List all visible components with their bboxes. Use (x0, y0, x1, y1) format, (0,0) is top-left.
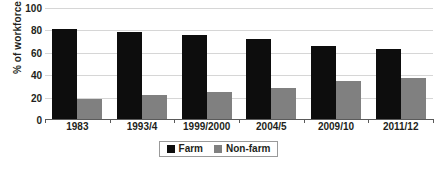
plot-area (45, 8, 433, 120)
bar-farm-1999-2000[interactable] (182, 35, 207, 120)
chart-legend: FarmNon-farm (0, 141, 437, 157)
x-axis-tick-mark (433, 119, 434, 123)
bar-farm-2009-10[interactable] (311, 46, 336, 120)
bar-non-farm-2011-12[interactable] (401, 78, 426, 120)
y-axis-tick-label: 60 (31, 47, 42, 58)
bar-group (45, 8, 110, 120)
bar-non-farm-2004-5[interactable] (271, 88, 296, 120)
y-axis-tick-label: 80 (31, 25, 42, 36)
bars-layer (45, 8, 433, 120)
x-axis-label-2004-5: 2004/5 (239, 121, 304, 132)
legend-entry-farm[interactable]: Farm (167, 143, 203, 154)
bar-group (368, 8, 433, 120)
bar-group (239, 8, 304, 120)
legend-box: FarmNon-farm (159, 141, 279, 157)
bar-group (174, 8, 239, 120)
bar-farm-2004-5[interactable] (246, 39, 271, 120)
bar-farm-1983[interactable] (52, 29, 77, 120)
bar-non-farm-1993-4[interactable] (142, 95, 167, 120)
y-axis-tick-label: 40 (31, 70, 42, 81)
bar-non-farm-1999-2000[interactable] (207, 92, 232, 120)
legend-entry-non-farm[interactable]: Non-farm (214, 143, 270, 154)
bar-group (304, 8, 369, 120)
legend-swatch-icon (167, 145, 175, 153)
bar-non-farm-1983[interactable] (77, 99, 102, 120)
y-axis-tick-label: 20 (31, 92, 42, 103)
x-axis-label-1983: 1983 (45, 121, 110, 132)
legend-label: Farm (179, 143, 203, 154)
x-axis-category-labels: 19831993/41999/20002004/52009/102011/12 (45, 121, 433, 132)
legend-label: Non-farm (226, 143, 270, 154)
legend-swatch-icon (214, 145, 222, 153)
x-axis-label-1999-2000: 1999/2000 (174, 121, 239, 132)
bar-group (110, 8, 175, 120)
x-axis-label-2011-12: 2011/12 (368, 121, 433, 132)
y-axis-tick-labels: 020406080100 (16, 8, 42, 120)
y-axis-tick-label: 100 (25, 3, 42, 14)
x-axis-label-1993-4: 1993/4 (110, 121, 175, 132)
bar-farm-2011-12[interactable] (376, 49, 401, 120)
bar-non-farm-2009-10[interactable] (336, 81, 361, 120)
y-axis-tick-label: 0 (36, 115, 42, 126)
bar-chart: % of workforce 020406080100 19831993/419… (0, 0, 437, 169)
x-axis-label-2009-10: 2009/10 (304, 121, 369, 132)
bar-farm-1993-4[interactable] (117, 32, 142, 120)
